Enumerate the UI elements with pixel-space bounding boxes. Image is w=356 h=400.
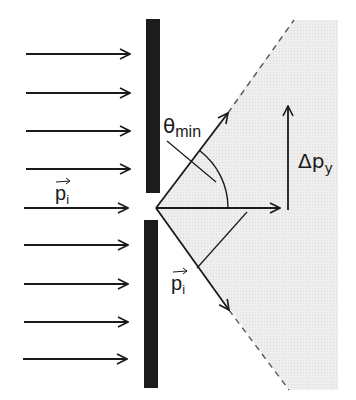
svg-text:pi: pi xyxy=(55,182,69,207)
incoming-p-subscript: i xyxy=(66,192,69,207)
theta-symbol: θ xyxy=(163,114,175,138)
delta-p-subscript: y xyxy=(324,160,332,176)
svg-text:θmin: θmin xyxy=(163,114,201,140)
svg-text:pi: pi xyxy=(171,272,185,297)
label-theta-min: θmin xyxy=(163,114,201,140)
theta-subscript: min xyxy=(175,123,201,140)
barrier-upper xyxy=(146,19,160,193)
diffraction-diagram: pi θmin Δpy pi xyxy=(0,0,356,400)
incoming-wave-arrows xyxy=(23,54,130,359)
outgoing-p-symbol: p xyxy=(171,272,182,294)
outgoing-p-subscript: i xyxy=(182,282,185,297)
label-outgoing-momentum: pi xyxy=(171,268,187,297)
delta-p-symbol: Δp xyxy=(298,149,324,173)
barrier-lower xyxy=(144,220,158,388)
incoming-p-symbol: p xyxy=(55,182,66,204)
diffraction-cone-shading xyxy=(156,20,338,390)
label-incoming-momentum: pi xyxy=(55,178,70,207)
